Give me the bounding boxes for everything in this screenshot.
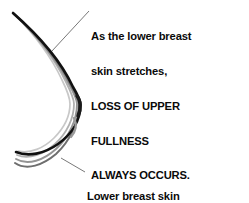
profile-contour-1 [14,14,70,152]
annotation-lower-line-1: Lower breast skin [87,191,217,203]
profile-contour-5-outermost [13,13,81,154]
annotation-upper-line-2: skin stretches, [91,66,191,78]
diagram-canvas: As the lower breast skin stretches, LOSS… [0,0,249,203]
annotation-upper-line-1: As the lower breast [91,31,191,43]
leader-line-upper [52,11,89,51]
annotation-upper-line-4: FULLNESS [91,136,191,148]
annotation-upper-line-3: LOSS OF UPPER [91,101,191,113]
profile-contour-group [13,13,81,167]
annotation-lower: Lower breast skin STRETCHES AND SAGS. [87,168,217,203]
leader-line-lower [61,158,85,172]
